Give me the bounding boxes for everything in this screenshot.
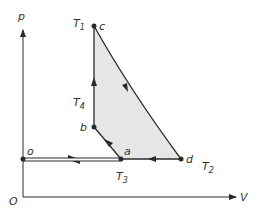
point-label-a: a: [124, 145, 131, 158]
point-a: [119, 157, 124, 162]
point-label-d: d: [186, 153, 194, 166]
p-axis-label: p: [17, 10, 25, 23]
temp-label-t3: T3: [116, 170, 128, 185]
point-d: [179, 157, 184, 162]
cycle-area: [94, 26, 181, 159]
point-b: [92, 125, 97, 130]
point-o: [21, 157, 26, 162]
arrow-right-icon: [68, 155, 76, 158]
pv-diagram: p V O o a b c d T1 T4 T3 T2: [0, 0, 259, 214]
point-label-b: b: [80, 121, 87, 134]
temp-label-t1: T1: [73, 17, 85, 32]
v-axis-label: V: [240, 191, 249, 204]
point-label-o: o: [27, 145, 34, 158]
arrow-left-icon: [72, 161, 80, 164]
temp-label-t4: T4: [73, 96, 85, 111]
point-c: [92, 24, 97, 29]
temp-label-t2: T2: [202, 160, 214, 175]
point-label-c: c: [99, 20, 105, 33]
origin-label: O: [9, 195, 18, 208]
